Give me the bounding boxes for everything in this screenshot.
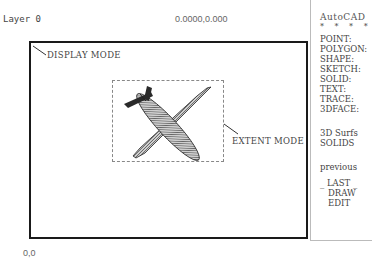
extent-mode-pointer-icon <box>224 124 238 134</box>
menu-item-polygon[interactable]: POLYGON: <box>320 44 372 54</box>
menu-item-shape[interactable]: SHAPE: <box>320 54 372 64</box>
menu-item-edit[interactable]: EDIT <box>320 198 372 208</box>
display-mode-pointer-icon <box>33 46 46 55</box>
menu-item-solid[interactable]: SOLID: <box>320 74 372 84</box>
menu-item-last[interactable]: _ LAST _ <box>320 178 372 188</box>
airplane-icon <box>124 86 211 166</box>
menu-item-3d-surfs[interactable]: 3D Surfs <box>320 128 372 138</box>
menu-item-draw[interactable]: DRAW <box>320 188 372 198</box>
menu-stars[interactable]: * * * * <box>320 22 372 32</box>
origin-label: 0,0 <box>23 248 36 258</box>
screen-menu: AutoCAD * * * * POINT: POLYGON: SHAPE: S… <box>320 12 372 208</box>
menu-item-solids[interactable]: SOLIDS <box>320 138 372 148</box>
display-mode-label: DISPLAY MODE <box>47 50 121 60</box>
menu-item-3dface[interactable]: 3DFACE: <box>320 104 372 114</box>
menu-bottom-rule <box>310 240 372 241</box>
menu-item-trace[interactable]: TRACE: <box>320 94 372 104</box>
menu-item-text[interactable]: TEXT: <box>320 84 372 94</box>
menu-item-sketch[interactable]: SKETCH: <box>320 64 372 74</box>
menu-item-previous[interactable]: previous <box>320 162 372 172</box>
sidebar-divider <box>310 0 311 241</box>
menu-title-autocad[interactable]: AutoCAD <box>320 12 372 22</box>
extent-mode-label: EXTENT MODE <box>232 136 304 146</box>
menu-item-point[interactable]: POINT: <box>320 34 372 44</box>
